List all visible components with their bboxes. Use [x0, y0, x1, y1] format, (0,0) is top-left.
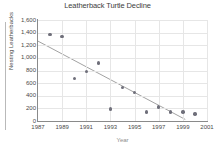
x-axis-tick-label: 1993: [97, 124, 123, 130]
y-axis-tick-label: 800: [2, 67, 36, 73]
x-axis-tick-label: 1991: [73, 124, 99, 130]
data-point[interactable]: [109, 107, 112, 110]
y-axis-tick-label: 1,600: [2, 17, 36, 23]
x-axis-tick-label: 1995: [122, 124, 148, 130]
gridline-vertical: [135, 20, 136, 121]
data-point[interactable]: [60, 35, 63, 38]
x-axis-tick-label: 1989: [49, 124, 75, 130]
data-point[interactable]: [181, 110, 184, 113]
gridline-horizontal: [38, 83, 207, 84]
gridline-horizontal: [38, 45, 207, 46]
x-axis-tick-label: 1999: [170, 124, 196, 130]
y-axis-tick-label: 200: [2, 105, 36, 111]
gridline-vertical: [110, 20, 111, 121]
gridline-horizontal: [38, 33, 207, 34]
y-axis-tick-label: 1,400: [2, 29, 36, 35]
gridline-horizontal: [38, 58, 207, 59]
x-axis-tick-label: 1987: [25, 124, 51, 130]
data-point[interactable]: [48, 33, 51, 36]
gridline-horizontal: [38, 71, 207, 72]
data-point[interactable]: [97, 61, 100, 64]
x-axis-tick-label: 2001: [194, 124, 215, 130]
plot-area: [38, 20, 207, 121]
y-axis-tick-label: 0: [2, 118, 36, 124]
y-axis-tick-label: 600: [2, 80, 36, 86]
y-axis-tick-label: 400: [2, 92, 36, 98]
chart-container: Leatherback Turtle Decline Nesting Leath…: [0, 0, 215, 146]
gridline-horizontal: [38, 108, 207, 109]
x-axis-tick-label: 1997: [146, 124, 172, 130]
gridline-vertical: [207, 20, 208, 121]
y-axis-tick-label: 1,200: [2, 42, 36, 48]
gridline-horizontal: [38, 20, 207, 21]
gridline-horizontal: [38, 96, 207, 97]
x-axis-title: Year: [38, 137, 207, 144]
x-axis-line: [37, 121, 208, 122]
y-axis-tick-label: 1,000: [2, 54, 36, 60]
data-point[interactable]: [193, 112, 196, 115]
gridline-vertical: [183, 20, 184, 121]
